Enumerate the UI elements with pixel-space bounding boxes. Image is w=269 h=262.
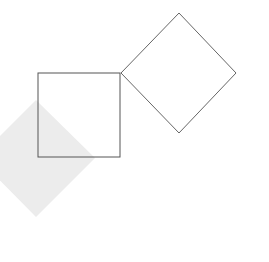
geometry-diagram: [0, 0, 269, 262]
rotated-square-diamond: [121, 13, 236, 133]
shaded-diamond: [0, 100, 95, 217]
